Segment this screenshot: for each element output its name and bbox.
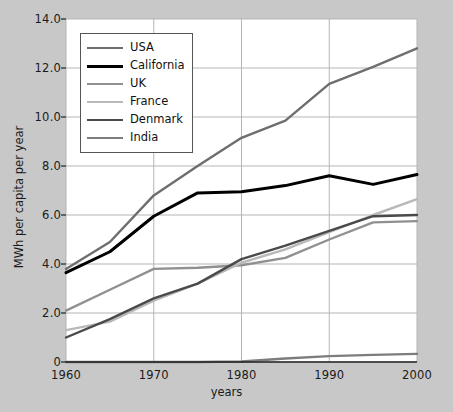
chart-legend: USACaliforniaUKFranceDenmarkIndia xyxy=(80,33,193,153)
legend-item-denmark[interactable]: Denmark xyxy=(81,111,192,129)
y-axis-label: MWh per capita per year xyxy=(12,117,26,277)
legend-swatch-california xyxy=(87,65,123,68)
legend-swatch-france xyxy=(87,101,123,103)
x-tick-label: 1960 xyxy=(51,368,81,382)
x-tick-label: 2000 xyxy=(402,368,432,382)
legend-swatch-uk xyxy=(87,83,123,85)
legend-item-california[interactable]: California xyxy=(81,57,192,75)
x-axis-label: years xyxy=(0,385,453,399)
legend-swatch-denmark xyxy=(87,119,123,121)
x-tick-label: 1980 xyxy=(226,368,256,382)
legend-label: France xyxy=(130,96,168,108)
legend-item-india[interactable]: India xyxy=(81,129,192,147)
legend-label: UK xyxy=(130,78,146,90)
legend-item-usa[interactable]: USA xyxy=(81,39,192,57)
legend-label: USA xyxy=(130,42,154,54)
legend-label: India xyxy=(130,132,158,144)
chart-figure: 02.04.06.08.010.012.014.0 19601970198019… xyxy=(0,0,453,412)
x-tick-label: 1970 xyxy=(139,368,169,382)
legend-swatch-india xyxy=(87,137,123,139)
legend-swatch-usa xyxy=(87,47,123,49)
legend-label: California xyxy=(130,60,185,72)
legend-item-france[interactable]: France xyxy=(81,93,192,111)
x-axis-ticks: 19601970198019902000 xyxy=(0,0,453,412)
x-tick-label: 1990 xyxy=(314,368,344,382)
legend-item-uk[interactable]: UK xyxy=(81,75,192,93)
legend-label: Denmark xyxy=(130,114,183,126)
